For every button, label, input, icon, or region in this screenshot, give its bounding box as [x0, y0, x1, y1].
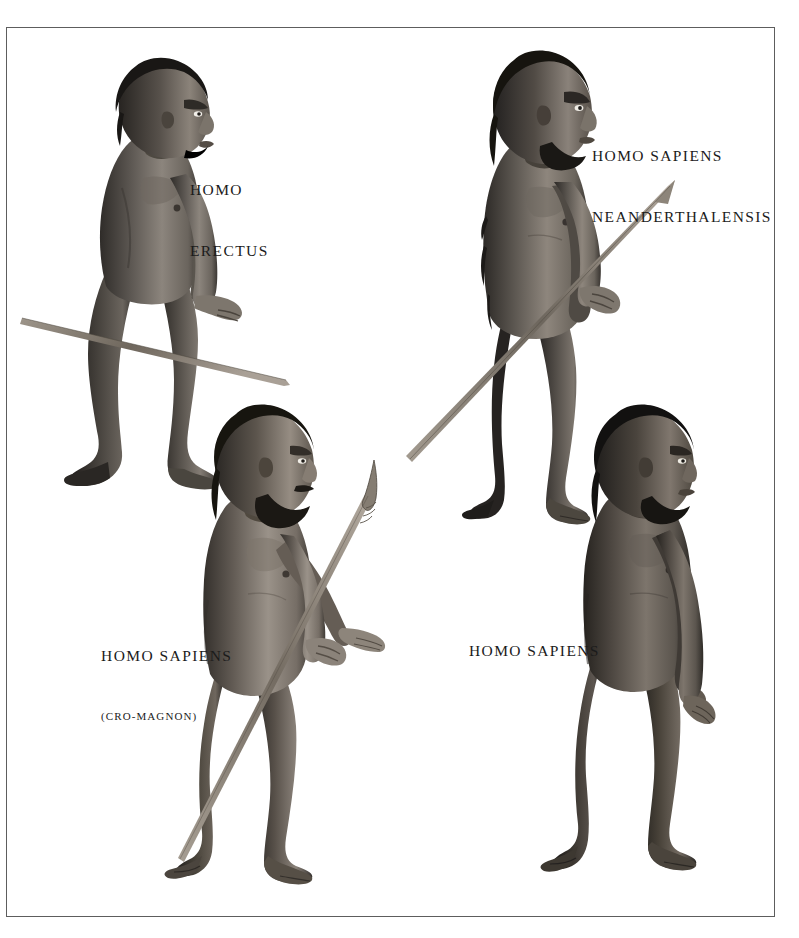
sapiens-mouth	[678, 489, 695, 496]
neander-nape-hair	[490, 114, 499, 166]
cromag-eye-pupil	[301, 459, 305, 463]
caption-line-2: NEANDERTHALENSIS	[592, 207, 772, 227]
erectus-spear-highlight	[22, 318, 286, 380]
caption-line-1: HOMO	[190, 180, 269, 200]
erectus-nipple	[174, 205, 181, 212]
sapiens-near-hand	[683, 695, 715, 724]
caption-homo-sapiens-cro-magnon: HOMO SAPIENS (CRO-MAGNON)	[101, 604, 232, 765]
erectus-back-leg	[70, 272, 136, 486]
caption-line-1: HOMO SAPIENS	[101, 646, 232, 666]
sapiens-ear	[639, 458, 653, 478]
erectus-ear	[161, 111, 174, 128]
caption-homo-erectus: HOMO ERECTUS	[190, 140, 269, 301]
erectus-spear	[20, 318, 290, 386]
neander-ear	[537, 106, 551, 126]
caption-line-1: HOMO SAPIENS	[469, 641, 600, 661]
cromag-nape-hair	[212, 468, 221, 520]
erectus-eye-pupil	[197, 112, 201, 116]
caption-line-2: ERECTUS	[190, 241, 269, 261]
neander-eye-pupil	[578, 106, 582, 110]
caption-sublabel: (CRO-MAGNON)	[101, 709, 232, 723]
caption-homo-sapiens-neanderthalensis: HOMO SAPIENS NEANDERTHALENSIS	[592, 106, 772, 267]
sapiens-eye-pupil	[681, 459, 685, 463]
erectus-nape-hair	[117, 112, 124, 146]
cromag-ear	[259, 458, 273, 478]
cromag-moustache	[294, 485, 314, 492]
caption-line-1: HOMO SAPIENS	[592, 146, 772, 166]
neander-back-leg	[470, 304, 512, 519]
illustration-plate: HOMO ERECTUS	[0, 0, 799, 938]
caption-homo-sapiens: HOMO SAPIENS	[469, 601, 600, 702]
cromag-far-hand	[338, 628, 385, 652]
